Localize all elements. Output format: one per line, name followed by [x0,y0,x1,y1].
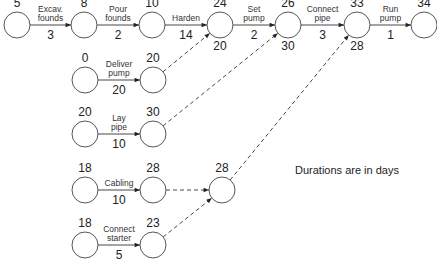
event-node [140,232,166,258]
latest-time: 30 [281,39,294,53]
event-node [344,12,370,38]
earliest-time: 20 [146,51,159,65]
activity-duration: 14 [179,28,192,42]
latest-time: 20 [213,39,226,53]
event-node [411,12,437,38]
earliest-time: 33 [350,0,363,10]
earliest-time: 8 [81,0,88,10]
event-node [72,121,98,147]
activity-duration: 20 [112,83,125,97]
earliest-time: 5 [14,0,21,10]
activity-label: founds [105,14,131,23]
earliest-time: 28 [146,161,159,175]
earliest-time: 26 [281,0,294,10]
durations-note: Durations are in days [295,164,399,176]
activity-label: pump [108,69,129,78]
activity-duration: 3 [319,28,326,42]
activity-duration: 2 [115,28,122,42]
event-node [275,12,301,38]
earliest-time: 23 [146,216,159,230]
event-node [72,67,98,93]
activity-duration: 10 [112,137,125,151]
latest-time: 28 [350,39,363,53]
activity-duration: 2 [251,28,258,42]
event-node [140,121,166,147]
earliest-time: 18 [78,216,91,230]
activity-label: pipe [111,123,127,132]
activity-label: founds [38,14,64,23]
earliest-time: 28 [215,161,228,175]
activity-duration: 1 [387,28,394,42]
activity-label: pump [380,14,401,23]
earliest-time: 18 [78,161,91,175]
event-node [139,12,165,38]
activity-duration: 5 [116,248,123,262]
event-node [72,177,98,203]
earliest-time: 24 [213,0,226,10]
activity-label: pump [243,14,264,23]
event-node [140,177,166,203]
dummy-arrow [230,35,349,180]
earliest-time: 30 [146,105,159,119]
earliest-time: 0 [82,51,89,65]
activity-label: pipe [314,14,330,23]
activity-duration: 10 [112,193,125,207]
event-node [207,12,233,38]
earliest-time: 34 [417,0,430,10]
activity-label: starter [107,234,131,243]
activity-label: Harden [172,14,200,23]
activity-duration: 3 [47,28,54,42]
event-node [209,177,235,203]
earliest-time: 10 [145,0,158,10]
activity-label: Cabling [105,179,134,188]
event-node [71,12,97,38]
event-node [4,12,30,38]
event-node [72,232,98,258]
event-node [140,67,166,93]
earliest-time: 20 [78,105,91,119]
dummy-arrow [163,198,212,237]
